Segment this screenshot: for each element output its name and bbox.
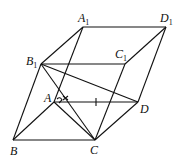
edge-A1-B1 (41, 27, 83, 64)
label-C: C (90, 143, 99, 157)
label-A1: A1 (77, 11, 89, 27)
edge-D1-C1 (125, 27, 166, 64)
edge-B1-D (41, 64, 138, 102)
edges (13, 27, 166, 140)
label-D1: D1 (159, 11, 173, 27)
edge-A-C (54, 102, 95, 140)
parallelepiped-diagram: A1 D1 B1 C1 A D B C (0, 0, 181, 167)
edge-D1-D (138, 27, 166, 102)
marks (57, 96, 96, 106)
label-A: A (43, 91, 52, 105)
label-B1: B1 (26, 54, 37, 70)
edge-B1-B (13, 64, 41, 140)
edge-A-B (13, 102, 54, 140)
label-B: B (10, 144, 18, 158)
edge-D-C (95, 102, 138, 140)
label-C1: C1 (115, 47, 127, 63)
label-D: D (139, 102, 149, 116)
